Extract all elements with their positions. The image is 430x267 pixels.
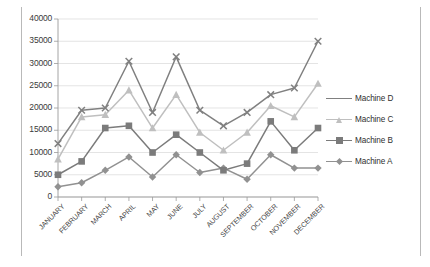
data-point-marker xyxy=(314,80,322,87)
legend-item-machine-b[interactable]: Machine B xyxy=(326,130,426,151)
data-point-marker xyxy=(78,158,85,165)
data-point-marker xyxy=(172,91,180,98)
legend-swatch-icon xyxy=(326,135,352,147)
chart-legend: Machine DMachine CMachine BMachine A xyxy=(326,88,426,172)
legend-swatch-icon xyxy=(326,93,352,105)
line-chart: 0500010000150002000025000300003500040000… xyxy=(0,0,430,267)
data-point-marker xyxy=(220,123,227,130)
legend-swatch-icon xyxy=(326,156,352,168)
data-point-marker xyxy=(149,149,156,156)
data-point-marker xyxy=(102,125,109,132)
data-point-marker xyxy=(55,171,62,178)
legend-label: Machine D xyxy=(355,94,393,103)
series-line xyxy=(58,41,318,143)
data-point-marker xyxy=(173,54,180,61)
data-point-marker xyxy=(102,167,109,174)
data-point-marker xyxy=(220,167,227,174)
data-point-marker xyxy=(149,109,156,116)
legend-label: Machine B xyxy=(355,136,393,145)
legend-item-machine-d[interactable]: Machine D xyxy=(326,88,426,109)
series-line xyxy=(58,121,318,174)
legend-item-machine-a[interactable]: Machine A xyxy=(326,151,426,172)
data-point-marker xyxy=(78,179,85,186)
data-point-marker xyxy=(126,123,133,130)
series-machine-a xyxy=(54,151,321,190)
legend-item-machine-c[interactable]: Machine C xyxy=(326,109,426,130)
series-line xyxy=(58,155,318,187)
legend-swatch-icon xyxy=(326,114,352,126)
series-line xyxy=(58,84,318,160)
data-point-marker xyxy=(315,125,322,132)
series-machine-b xyxy=(55,118,322,178)
data-point-marker xyxy=(291,147,298,154)
legend-label: Machine A xyxy=(355,157,392,166)
data-point-marker xyxy=(267,118,274,125)
data-point-marker xyxy=(54,155,62,162)
data-point-marker xyxy=(125,86,133,93)
data-point-marker xyxy=(291,164,298,171)
data-point-marker xyxy=(314,164,321,171)
data-point-marker xyxy=(54,183,61,190)
data-point-marker xyxy=(173,131,180,138)
data-point-marker xyxy=(267,102,275,109)
legend-label: Machine C xyxy=(355,115,393,124)
data-point-marker xyxy=(197,149,204,156)
data-point-marker xyxy=(196,129,204,136)
data-point-marker xyxy=(244,109,251,116)
data-point-marker xyxy=(244,160,251,167)
